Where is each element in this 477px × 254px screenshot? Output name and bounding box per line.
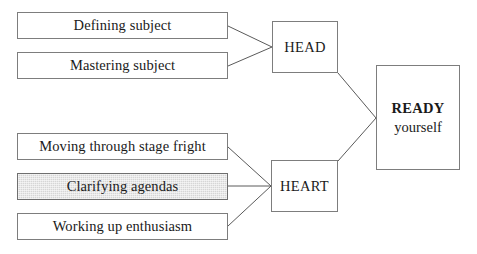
connector-defining-to-head (228, 26, 272, 47)
outcome-subtitle: yourself (394, 118, 442, 136)
connector-moving-to-heart (228, 147, 271, 186)
hub-box-head[interactable]: HEAD (272, 21, 338, 73)
hub-box-heart[interactable]: HEART (271, 160, 338, 212)
input-box-mastering-subject[interactable]: Mastering subject (17, 52, 228, 79)
hub-box-label: HEAD (284, 39, 325, 55)
connector-heart-to-ready (338, 118, 376, 161)
input-box-working-up-enthusiasm[interactable]: Working up enthusiasm (17, 213, 228, 240)
input-box-label: Moving through stage fright (39, 138, 206, 154)
input-box-moving-through-stage-fright[interactable]: Moving through stage fright (17, 133, 228, 160)
input-box-clarifying-agendas[interactable]: Clarifying agendas (17, 173, 228, 200)
connector-head-to-ready (338, 73, 376, 118)
outcome-title: READY (391, 99, 444, 117)
outcome-box-ready-yourself[interactable]: READY yourself (376, 65, 460, 170)
input-box-label: Clarifying agendas (67, 178, 179, 194)
input-box-label: Defining subject (74, 17, 172, 33)
connector-working-to-heart (228, 186, 271, 226)
input-box-label: Working up enthusiasm (53, 218, 192, 234)
hub-box-label: HEART (280, 178, 329, 194)
input-box-defining-subject[interactable]: Defining subject (17, 12, 228, 39)
connector-mastering-to-head (228, 47, 272, 66)
diagram-canvas: Defining subject Mastering subject HEAD … (0, 0, 477, 254)
input-box-label: Mastering subject (70, 57, 175, 73)
